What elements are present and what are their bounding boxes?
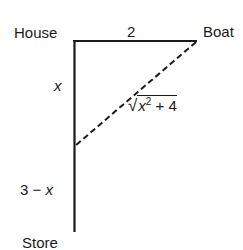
radicand-variable: x (138, 97, 146, 114)
upper-vertical-length-label: x (54, 78, 62, 93)
hypotenuse-length-label: √x2 + 4 (128, 95, 177, 114)
house-label: House (14, 25, 57, 40)
radicand-constant: + 4 (151, 97, 176, 114)
lower-vertical-length-label: 3 − x (20, 182, 53, 197)
top-edge-length-label: 2 (127, 24, 135, 39)
radicand: x2 + 4 (137, 95, 177, 113)
radical-sign: √ (128, 96, 137, 115)
diagram-canvas: House 2 Boat x √x2 + 4 3 − x Store (0, 0, 243, 250)
lower-vertical-operator: − (28, 181, 45, 198)
boat-label: Boat (203, 24, 234, 39)
hypotenuse-dashed-edge (75, 42, 196, 146)
lower-vertical-variable: x (45, 181, 53, 198)
store-label: Store (22, 235, 58, 250)
